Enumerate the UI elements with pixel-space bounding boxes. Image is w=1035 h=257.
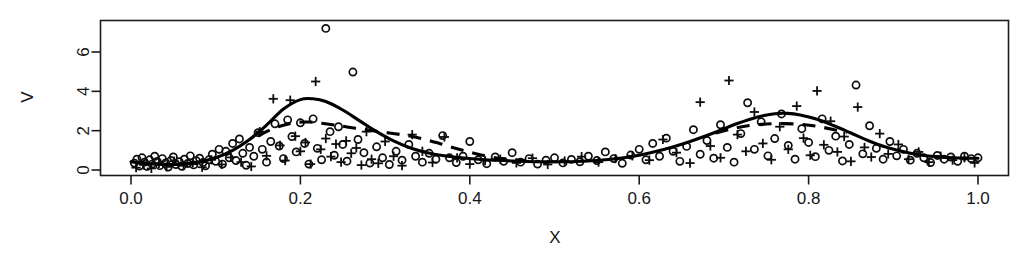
data-point-circle [636, 146, 643, 153]
data-point-circle [360, 149, 367, 156]
data-point-circle [259, 146, 266, 153]
y-tick-label: 4 [74, 87, 93, 96]
data-point-circle [717, 121, 724, 128]
data-point-circle [825, 147, 832, 154]
plot-frame-group [101, 21, 1009, 176]
data-point-plus [846, 157, 855, 166]
data-point-circle [318, 156, 325, 163]
data-point-circle [349, 68, 356, 75]
data-point-plus [347, 149, 356, 158]
x-axis-title: X [549, 228, 560, 247]
data-point-plus [342, 136, 351, 145]
data-point-circle [812, 153, 819, 160]
x-tick-label: 0.8 [797, 189, 821, 208]
data-point-circle [354, 136, 361, 143]
y-tick-label: 0 [74, 165, 93, 174]
data-point-circle [839, 157, 846, 164]
y-tick-label: 6 [74, 47, 93, 56]
data-point-circle [246, 144, 253, 151]
data-point-circle [236, 135, 243, 142]
data-point-circle [373, 143, 380, 150]
data-point-plus [281, 156, 290, 165]
data-point-plus [311, 77, 320, 86]
data-point-circle [690, 126, 697, 133]
data-point-circle [419, 159, 426, 166]
series-circle [131, 25, 982, 171]
data-point-plus [672, 148, 681, 157]
data-point-circle [602, 148, 609, 155]
x-tick-label: 0.0 [119, 189, 143, 208]
data-point-plus [367, 155, 376, 164]
data-point-circle [509, 149, 516, 156]
data-point-plus [894, 140, 903, 149]
data-point-circle [322, 25, 329, 32]
data-point-plus [326, 152, 335, 161]
x-tick-label: 1.0 [966, 189, 990, 208]
data-point-plus [357, 160, 366, 169]
data-point-plus [904, 155, 913, 164]
data-point-plus [799, 134, 808, 143]
data-point-circle [656, 153, 663, 160]
data-point-circle [229, 140, 236, 147]
data-point-plus [853, 102, 862, 111]
data-point-plus [758, 139, 767, 148]
data-points-group [131, 25, 982, 173]
data-point-plus [875, 129, 884, 138]
series-plus [131, 76, 979, 173]
scatter-plot-figure: 0.00.20.40.60.81.0 0246 X V [0, 0, 1035, 257]
data-point-plus [716, 153, 725, 162]
data-point-plus [724, 76, 733, 85]
data-point-circle [379, 154, 386, 161]
data-point-circle [619, 160, 626, 167]
data-point-circle [751, 146, 758, 153]
data-point-circle [893, 152, 900, 159]
data-point-plus [741, 147, 750, 156]
data-point-plus [792, 101, 801, 110]
y-axis-title: V [18, 91, 37, 103]
data-point-plus [440, 132, 449, 141]
data-point-circle [724, 144, 731, 151]
x-tick-label: 0.2 [289, 189, 313, 208]
y-tick-label: 2 [74, 126, 93, 135]
data-point-circle [832, 133, 839, 140]
data-point-circle [250, 153, 257, 160]
data-point-plus [237, 158, 246, 167]
y-axis-ticks-group: 0246 [74, 47, 101, 174]
data-point-plus [658, 135, 667, 144]
data-point-circle [791, 156, 798, 163]
data-point-circle [386, 161, 393, 168]
data-point-circle [730, 159, 737, 166]
data-point-circle [326, 128, 333, 135]
data-point-plus [269, 94, 278, 103]
data-point-plus [374, 159, 383, 168]
data-point-circle [412, 153, 419, 160]
data-point-circle [744, 99, 751, 106]
x-axis-ticks-group: 0.00.20.40.60.81.0 [119, 176, 990, 208]
data-point-circle [886, 138, 893, 145]
data-point-plus [840, 132, 849, 141]
data-point-plus [750, 107, 759, 116]
data-point-plus [833, 147, 842, 156]
data-point-circle [649, 140, 656, 147]
data-point-plus [685, 159, 694, 168]
x-tick-label: 0.4 [458, 189, 482, 208]
data-point-circle [852, 81, 859, 88]
data-point-circle [697, 151, 704, 158]
data-point-circle [267, 138, 274, 145]
data-point-plus [812, 86, 821, 95]
data-point-plus [867, 152, 876, 161]
data-point-circle [239, 150, 246, 157]
data-point-circle [466, 138, 473, 145]
data-point-circle [846, 141, 853, 148]
data-point-plus [806, 151, 815, 160]
data-point-plus [767, 155, 776, 164]
data-point-plus [331, 139, 340, 148]
data-point-circle [343, 158, 350, 165]
data-point-circle [805, 139, 812, 146]
data-point-plus [706, 141, 715, 150]
plot-canvas: 0.00.20.40.60.81.0 0246 X V [0, 0, 1035, 257]
data-point-plus [389, 152, 398, 161]
data-point-plus [465, 160, 474, 169]
data-point-circle [335, 123, 342, 130]
x-tick-label: 0.6 [627, 189, 651, 208]
